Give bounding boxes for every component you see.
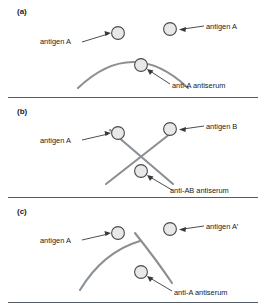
panel-a-graphic: antigen A antigen A anti-A antiserum (0, 0, 266, 100)
leader-line-right-antigen (183, 26, 204, 29)
label-antiserum: anti-AB antiserum (170, 186, 229, 195)
leader-line-left-antigen (82, 234, 108, 240)
well-antigen-a-prime-right (164, 223, 177, 236)
well-antigen-a-left (112, 127, 125, 140)
well-anti-a-antiserum (135, 266, 148, 279)
well-antigen-a-right (164, 23, 177, 36)
label-left-antigen: antigen A (40, 136, 71, 145)
arrowhead-left-antigen (105, 231, 112, 236)
well-antigen-a-left (112, 227, 125, 240)
label-right-antigen: antigen B (206, 122, 237, 131)
panel-c: (c) antigen A antigen A′ anti-A antiseru… (0, 200, 266, 306)
panel-divider-a (8, 97, 258, 98)
arrowhead-left-antigen (105, 31, 112, 36)
label-right-antigen: antigen A (206, 22, 237, 31)
label-left-antigen: antigen A (40, 236, 71, 245)
leader-line-left-antigen (82, 134, 108, 140)
label-antiserum: anti-A antiserum (172, 81, 225, 90)
panel-a: (a) antigen A antigen A anti-A antiserum (0, 0, 266, 100)
precipitin-arc-partial (80, 241, 140, 290)
label-left-antigen: antigen A (40, 37, 71, 46)
label-right-antigen: antigen A′ (206, 222, 239, 231)
well-anti-ab-antiserum (135, 165, 148, 178)
panel-divider-b (8, 197, 258, 198)
arrowhead-right-antigen (179, 227, 186, 232)
leader-line-right-antigen (183, 126, 204, 129)
arrowhead-antiserum (147, 69, 154, 75)
leader-line-left-antigen (82, 34, 108, 42)
arrowhead-right-antigen (179, 127, 186, 132)
immunodiffusion-figure: (a) antigen A antigen A anti-A antiserum (0, 0, 266, 306)
panel-divider-c (8, 302, 258, 303)
label-antiserum: anti-A antiserum (174, 288, 227, 297)
arrowhead-left-antigen (105, 131, 112, 136)
well-anti-a-antiserum (135, 59, 148, 72)
well-antigen-b-right (164, 123, 177, 136)
panel-b: (b) antigen A antigen B anti-AB antiseru… (0, 100, 266, 200)
panel-c-graphic: antigen A antigen A′ anti-A antiserum (0, 200, 266, 306)
panel-b-graphic: antigen A antigen B anti-AB antiserum (0, 100, 266, 200)
leader-line-right-antigen (183, 226, 204, 229)
well-antigen-a-left (112, 27, 125, 40)
arrowhead-right-antigen (179, 27, 186, 32)
